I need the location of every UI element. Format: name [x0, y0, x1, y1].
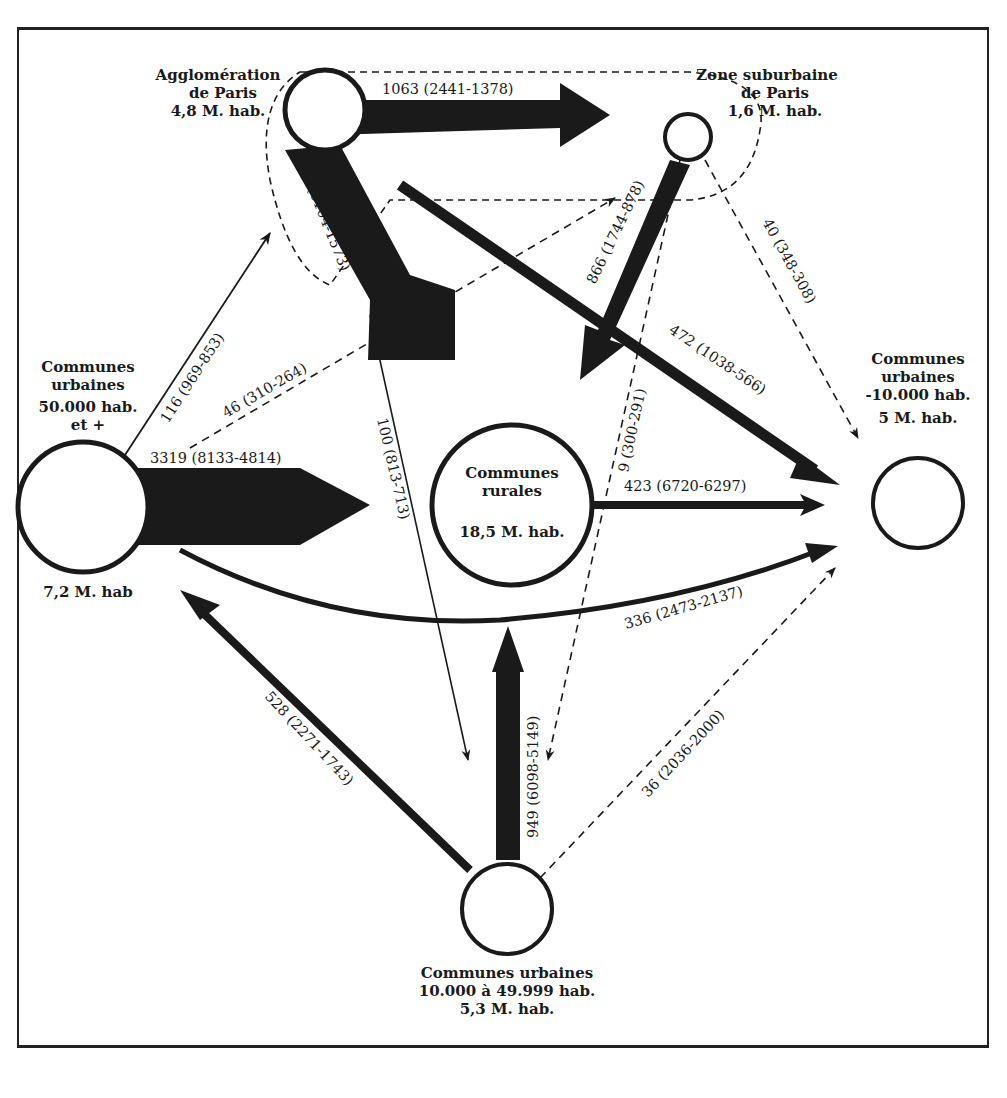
node-small-urban: [873, 458, 963, 548]
svg-text:Communes urbaines: Communes urbaines: [421, 964, 593, 982]
svg-text:urbaines: urbaines: [51, 376, 125, 394]
svg-text:1,6 M. hab.: 1,6 M. hab.: [728, 102, 823, 120]
flow-label-large-rural: 3319 (8133-4814): [150, 450, 282, 466]
node-rural: [432, 425, 592, 585]
flow-arrow-medium-large: [200, 610, 470, 870]
svg-text:5,3 M. hab.: 5,3 M. hab.: [460, 1000, 555, 1018]
label-paris: Agglomération de Paris 4,8 M. hab.: [155, 66, 281, 120]
svg-text:Agglomération: Agglomération: [155, 66, 281, 84]
svg-text:7,2 M. hab: 7,2 M. hab: [43, 583, 132, 601]
flow-label-paris-medium: 100 (813-713): [374, 416, 413, 521]
svg-text:de Paris: de Paris: [741, 84, 809, 102]
node-large-urban: [18, 442, 148, 572]
svg-text:4,8 M. hab.: 4,8 M. hab.: [171, 102, 266, 120]
flow-label-suburb-small: 40 (348-308): [759, 216, 819, 307]
flow-label-suburb-medium: 9 (300-291): [615, 387, 648, 474]
flow-label-large-suburb: 46 (310-264): [220, 359, 310, 420]
svg-text:-10.000 hab.: -10.000 hab.: [865, 386, 970, 404]
flow-label-rural-small: 423 (6720-6297): [624, 478, 746, 494]
flow-label-paris-small: 472 (1038-566): [666, 321, 769, 397]
flow-arrow-medium-small: [540, 568, 835, 878]
svg-text:5 M. hab.: 5 M. hab.: [878, 409, 957, 427]
svg-text:Zone suburbaine: Zone suburbaine: [696, 66, 838, 84]
migration-flow-diagram: Agglomération de Paris 4,8 M. hab. Zone …: [0, 0, 1007, 1098]
flow-arrow-suburb-small: [705, 160, 858, 438]
flow-label-medium-small: 36 (2036-2000): [638, 706, 727, 800]
svg-text:de Paris: de Paris: [189, 84, 257, 102]
flow-label-medium-rural: 949 (6098-5149): [525, 716, 541, 838]
flow-arrow-medium-rural: [496, 660, 520, 860]
node-paris: [285, 70, 365, 150]
svg-text:Communes: Communes: [41, 358, 135, 376]
svg-text:18,5 M. hab.: 18,5 M. hab.: [459, 523, 564, 541]
svg-text:10.000 à 49.999 hab.: 10.000 à 49.999 hab.: [419, 982, 596, 1000]
flow-label-paris-suburb: 1063 (2441-1378): [382, 81, 514, 97]
flow-label-medium-large: 528 (2271-1743): [262, 688, 357, 788]
label-small-urban: Communes urbaines -10.000 hab. 5 M. hab.: [865, 350, 970, 427]
flow-arrow-large-rural: [130, 468, 370, 545]
svg-text:Communes: Communes: [871, 350, 965, 368]
label-medium-urban: Communes urbaines 10.000 à 49.999 hab. 5…: [419, 964, 596, 1018]
node-medium-urban: [462, 864, 552, 954]
svg-text:urbaines: urbaines: [881, 368, 955, 386]
svg-text:et +: et +: [71, 416, 105, 434]
svg-text:rurales: rurales: [482, 482, 542, 500]
flow-arrow-large-paris: [125, 233, 270, 455]
svg-text:50.000 hab.: 50.000 hab.: [39, 398, 138, 416]
label-suburb: Zone suburbaine de Paris 1,6 M. hab.: [696, 66, 838, 120]
flow-label-large-paris: 116 (969-853): [157, 330, 227, 426]
svg-text:Communes: Communes: [465, 464, 559, 482]
node-suburb: [665, 114, 711, 160]
